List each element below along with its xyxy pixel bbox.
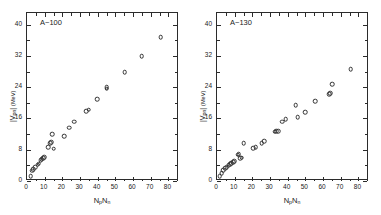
x-tick-label: 80	[164, 184, 171, 191]
panel-annotation-left: A~100	[40, 18, 62, 27]
data-point	[294, 103, 299, 108]
x-tick-minor	[226, 13, 227, 16]
data-point	[67, 126, 72, 131]
y-tick-major	[173, 150, 177, 151]
x-tick-minor	[142, 13, 143, 16]
x-tick-minor	[160, 179, 161, 182]
y-tick-minor	[175, 72, 178, 73]
x-tick-major	[252, 13, 253, 17]
y-tick-major	[173, 56, 177, 57]
x-tick-minor	[177, 13, 178, 16]
y-tick-minor	[27, 72, 30, 73]
data-point	[303, 110, 308, 115]
x-tick-minor	[71, 13, 72, 16]
data-point	[232, 159, 237, 164]
data-point	[254, 145, 259, 150]
x-tick-major	[341, 177, 342, 181]
x-tick-major	[115, 177, 116, 181]
x-tick-minor	[261, 179, 262, 182]
x-tick-major	[151, 177, 152, 181]
figure-root: A~100 NpNn |Vpn| (MeV) 08162432401020304…	[0, 0, 381, 215]
data-point	[51, 146, 56, 151]
y-tick-label: 32	[192, 52, 212, 59]
y-tick-minor	[175, 40, 178, 41]
plot-area-right	[217, 13, 367, 179]
y-tick-major	[217, 150, 221, 151]
plot-frame-right	[216, 12, 368, 180]
y-tick-major	[217, 87, 221, 88]
y-tick-major	[363, 150, 367, 151]
x-tick-minor	[279, 179, 280, 182]
x-tick-minor	[244, 13, 245, 16]
x-tick-minor	[54, 13, 55, 16]
y-tick-label: 16	[192, 114, 212, 121]
x-tick-label: 60	[318, 184, 325, 191]
x-tick-minor	[107, 179, 108, 182]
y-tick-minor	[217, 103, 220, 104]
x-tick-minor	[314, 179, 315, 182]
y-tick-major	[217, 25, 221, 26]
x-tick-major	[235, 13, 236, 17]
x-tick-major	[323, 13, 324, 17]
x-tick-label: 20	[58, 184, 65, 191]
data-point	[295, 115, 300, 120]
y-tick-minor	[217, 40, 220, 41]
x-tick-minor	[177, 179, 178, 182]
x-tick-label: 30	[265, 184, 272, 191]
x-tick-label-zero: 0	[214, 184, 218, 191]
y-tick-minor	[217, 72, 220, 73]
y-tick-major	[27, 118, 31, 119]
data-point	[42, 155, 47, 160]
x-tick-label: 70	[336, 184, 343, 191]
x-tick-minor	[279, 13, 280, 16]
x-tick-minor	[350, 13, 351, 16]
y-tick-major	[27, 181, 31, 182]
chart-panel-right: A~130 NpNn |Vpn| (MeV) 08162432401020304…	[190, 0, 380, 215]
y-tick-minor	[175, 103, 178, 104]
x-tick-major	[358, 13, 359, 17]
x-tick-minor	[367, 179, 368, 182]
data-point	[313, 99, 318, 104]
x-tick-minor	[261, 13, 262, 16]
y-tick-minor	[365, 134, 368, 135]
y-tick-major	[173, 118, 177, 119]
x-tick-minor	[350, 179, 351, 182]
chart-panel-left: A~100 NpNn |Vpn| (MeV) 08162432401020304…	[0, 0, 190, 215]
y-tick-label: 32	[2, 52, 22, 59]
y-tick-minor	[365, 40, 368, 41]
x-tick-major	[235, 177, 236, 181]
x-tick-major	[98, 177, 99, 181]
data-point	[348, 67, 353, 72]
x-tick-minor	[142, 179, 143, 182]
y-tick-label: 40	[2, 20, 22, 27]
data-point	[122, 70, 127, 75]
y-tick-minor	[217, 165, 220, 166]
x-tick-major	[288, 13, 289, 17]
x-tick-major	[80, 177, 81, 181]
data-point	[28, 174, 33, 179]
x-tick-major	[270, 13, 271, 17]
x-tick-minor	[332, 179, 333, 182]
y-tick-major	[173, 181, 177, 182]
x-tick-major	[98, 13, 99, 17]
y-tick-minor	[27, 134, 30, 135]
x-tick-minor	[297, 179, 298, 182]
x-tick-minor	[54, 179, 55, 182]
data-point	[280, 119, 285, 124]
plot-area-left	[27, 13, 177, 179]
x-tick-minor	[367, 13, 368, 16]
y-tick-minor	[365, 103, 368, 104]
y-tick-label: 8	[192, 145, 212, 152]
y-tick-major	[363, 25, 367, 26]
data-point	[242, 141, 247, 146]
x-tick-label: 40	[93, 184, 100, 191]
x-tick-major	[45, 13, 46, 17]
y-tick-label: 24	[192, 83, 212, 90]
x-tick-major	[133, 177, 134, 181]
x-tick-label: 10	[40, 184, 47, 191]
x-tick-major	[341, 13, 342, 17]
data-point	[276, 129, 281, 134]
data-point	[50, 132, 55, 137]
x-tick-major	[151, 13, 152, 17]
y-tick-minor	[175, 134, 178, 135]
